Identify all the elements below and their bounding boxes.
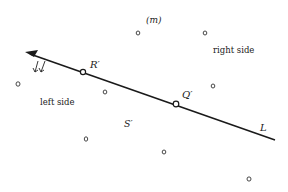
label-L: L [259,122,267,133]
point-marker [136,31,140,35]
label-S-prime: S′ [124,118,134,129]
diagram-canvas: R′ Q′ L (m) right side left side S′ [0,0,288,192]
direction-arrows-icon [33,61,45,72]
point-marker [103,90,107,94]
point-marker [84,137,87,141]
point-marker [16,82,20,86]
label-right-side: right side [213,45,254,55]
label-R-prime: R′ [89,59,101,70]
point-marker [211,84,215,88]
point-marker [162,150,166,154]
point-marker [203,31,207,35]
point-Q-prime [173,101,179,107]
point-marker [247,177,251,181]
point-R-prime [80,69,85,74]
label-m: (m) [146,15,162,25]
label-left-side: left side [40,97,75,107]
label-Q-prime: Q′ [182,89,193,100]
